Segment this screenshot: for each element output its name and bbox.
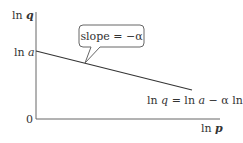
- intercept-label-prefix: ln: [14, 46, 28, 59]
- intercept-label: ln a: [14, 46, 35, 59]
- equation-label: ln q = ln a − α ln p: [147, 94, 243, 107]
- x-axis-label-prefix: ln: [201, 122, 215, 135]
- diagram-canvas: slope = −α ln q ln a 0 ln q = ln a − α l…: [0, 0, 243, 143]
- y-axis-label: ln q: [12, 9, 34, 22]
- slope-callout: slope = −α: [79, 25, 144, 63]
- origin-label: 0: [26, 113, 33, 126]
- x-axis-label-var: p: [215, 122, 223, 135]
- y-axis-label-prefix: ln: [12, 9, 26, 22]
- y-axis-label-var: q: [26, 9, 34, 22]
- eq-part3: − α ln: [205, 94, 243, 107]
- eq-part1: ln: [147, 94, 161, 107]
- eq-part2: = ln: [168, 94, 198, 107]
- eq-q: q: [161, 94, 168, 107]
- demand-line: [36, 51, 192, 90]
- intercept-label-var: a: [28, 46, 35, 59]
- callout-text: slope = −α: [80, 30, 143, 43]
- x-axis-label: ln p: [201, 122, 223, 135]
